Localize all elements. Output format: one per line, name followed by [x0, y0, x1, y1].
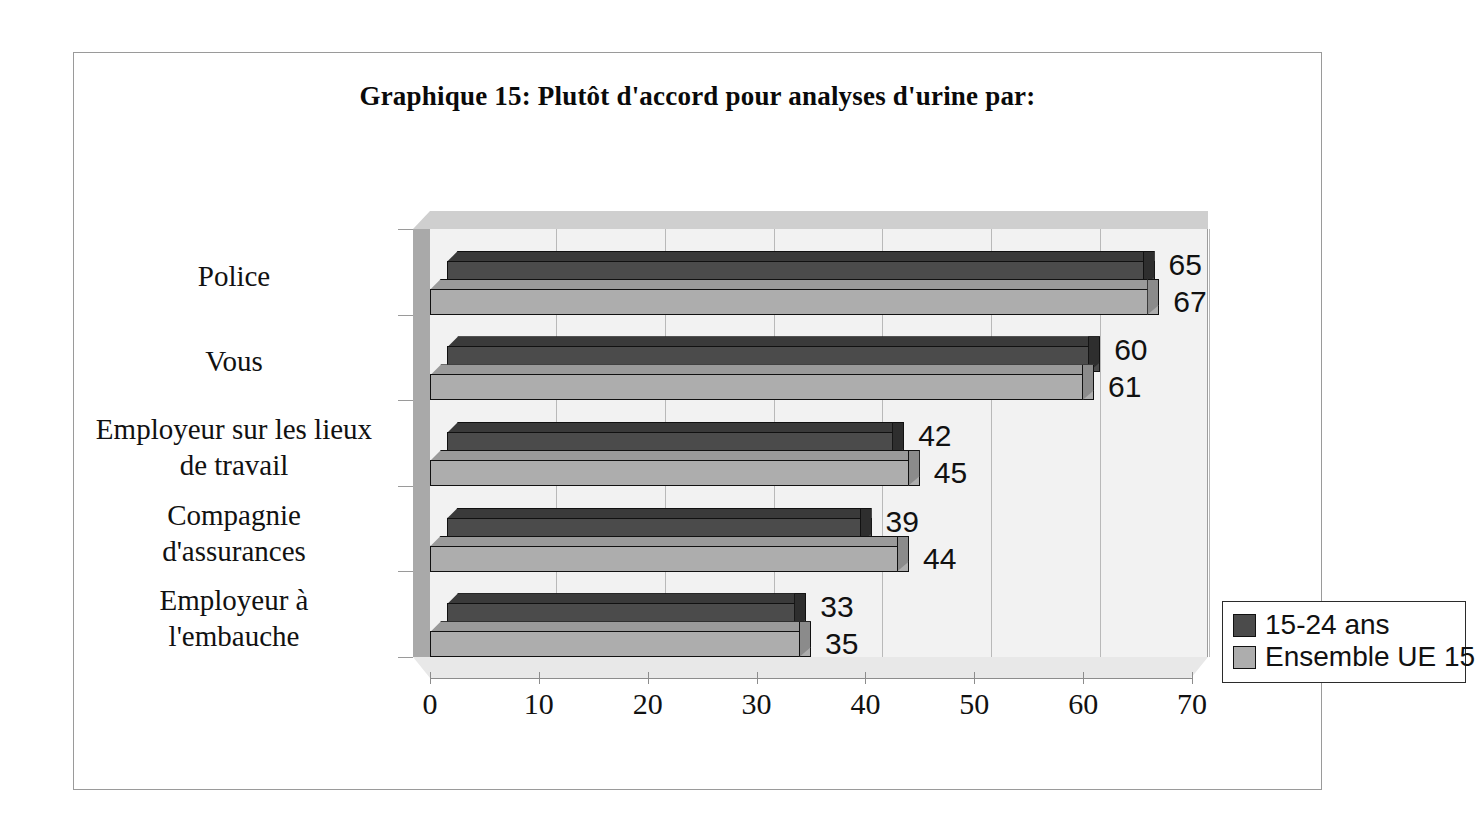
category-tick-2 — [398, 400, 413, 401]
bar-face — [430, 546, 909, 572]
category-label-line: Employeur sur les lieux — [69, 411, 399, 447]
category-label-1: Vous — [69, 343, 399, 379]
category-label-line: Compagnie — [69, 497, 399, 533]
value-label-0-4: 33 — [820, 590, 853, 624]
bar-face — [430, 289, 1159, 315]
value-label-0-2: 42 — [918, 419, 951, 453]
bar-1-1[interactable] — [430, 364, 1094, 390]
category-label-3: Compagnied'assurances — [69, 497, 399, 569]
x-tick-mark-0 — [430, 672, 431, 684]
legend-label-0: 15-24 ans — [1265, 609, 1390, 641]
category-label-line: de travail — [69, 447, 399, 483]
category-label-line: Vous — [69, 343, 399, 379]
bar-face — [430, 374, 1094, 400]
x-tick-mark-20 — [648, 672, 649, 684]
bar-0-2[interactable] — [447, 422, 904, 448]
x-tick-label-20: 20 — [613, 687, 683, 721]
plot-area: 65676061424539443335 010203040506070 15-… — [344, 211, 1154, 681]
bar-face — [430, 631, 811, 657]
value-label-1-1: 61 — [1108, 370, 1141, 404]
x-tick-mark-40 — [865, 672, 866, 684]
bar-1-3[interactable] — [430, 536, 909, 562]
x-tick-label-60: 60 — [1048, 687, 1118, 721]
category-label-line: d'assurances — [69, 533, 399, 569]
value-label-1-4: 35 — [825, 627, 858, 661]
chart-title: Graphique 15: Plutôt d'accord pour analy… — [74, 81, 1321, 112]
x-tick-label-0: 0 — [395, 687, 465, 721]
x-tick-mark-50 — [974, 672, 975, 684]
value-label-1-0: 67 — [1173, 285, 1206, 319]
x-tick-mark-10 — [539, 672, 540, 684]
value-label-0-1: 60 — [1114, 333, 1147, 367]
category-label-4: Employeur àl'embauche — [69, 582, 399, 654]
legend-swatch-ensemble-ue-15 — [1233, 646, 1256, 669]
plot-side-wall — [413, 229, 430, 657]
x-tick-mark-70 — [1192, 672, 1193, 684]
x-tick-mark-60 — [1083, 672, 1084, 684]
category-label-0: Police — [69, 258, 399, 294]
legend-swatch-15-24-ans — [1233, 614, 1256, 637]
plot-floor — [413, 657, 1208, 678]
x-tick-label-10: 10 — [504, 687, 574, 721]
value-label-1-2: 45 — [934, 456, 967, 490]
legend-label-1: Ensemble UE 15 — [1265, 641, 1475, 673]
figure-frame: Graphique 15: Plutôt d'accord pour analy… — [73, 52, 1322, 790]
category-tick-4 — [398, 571, 413, 572]
bar-0-1[interactable] — [447, 336, 1100, 362]
value-label-0-3: 39 — [886, 505, 919, 539]
category-label-2: Employeur sur les lieuxde travail — [69, 411, 399, 483]
plot-top-cap — [413, 211, 1208, 229]
bar-0-3[interactable] — [447, 508, 872, 534]
bar-1-0[interactable] — [430, 279, 1159, 305]
legend-item-1[interactable]: Ensemble UE 15 — [1233, 641, 1455, 673]
category-tick-5 — [398, 657, 413, 658]
category-tick-3 — [398, 486, 413, 487]
x-tick-label-70: 70 — [1157, 687, 1227, 721]
x-tick-label-30: 30 — [722, 687, 792, 721]
bar-face — [430, 460, 920, 486]
gridline-70 — [1209, 229, 1210, 657]
bar-1-2[interactable] — [430, 450, 920, 476]
category-label-line: Employeur à — [69, 582, 399, 618]
bar-0-0[interactable] — [447, 251, 1155, 277]
category-label-line: Police — [69, 258, 399, 294]
value-label-1-3: 44 — [923, 542, 956, 576]
value-label-0-0: 65 — [1169, 248, 1202, 282]
x-tick-mark-30 — [757, 672, 758, 684]
x-tick-label-50: 50 — [939, 687, 1009, 721]
x-tick-label-40: 40 — [830, 687, 900, 721]
bar-1-4[interactable] — [430, 621, 811, 647]
chart-legend[interactable]: 15-24 ans Ensemble UE 15 — [1222, 601, 1466, 683]
legend-item-0[interactable]: 15-24 ans — [1233, 609, 1455, 641]
x-axis-line — [430, 678, 1192, 679]
category-label-line: l'embauche — [69, 618, 399, 654]
category-tick-0 — [398, 229, 413, 230]
category-tick-1 — [398, 315, 413, 316]
bar-0-4[interactable] — [447, 593, 806, 619]
